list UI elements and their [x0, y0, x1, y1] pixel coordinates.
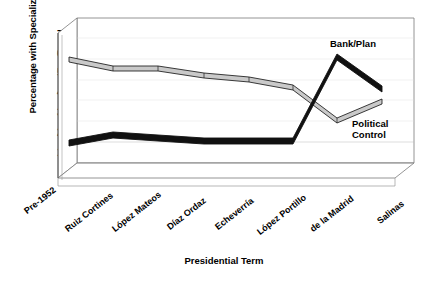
plot-area — [0, 0, 448, 283]
x-axis-title: Presidential Term — [0, 255, 448, 266]
chart-root: Percentage with Specialization 70 60 50 … — [0, 0, 448, 283]
left-wall — [58, 18, 77, 178]
series-label-bank-plan: Bank/Plan — [330, 38, 376, 49]
series-label-political-control: Political Control — [352, 118, 388, 140]
floor — [58, 163, 414, 178]
